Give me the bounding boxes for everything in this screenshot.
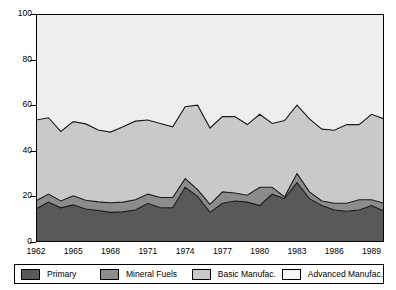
legend-item-advanced-manufac: Advanced Manufac. [282,269,383,280]
mineral-fuels-swatch [100,269,119,280]
advanced-manufac-swatch [282,269,301,280]
x-axis-tick-label: 1965 [56,246,90,256]
legend-label: Mineral Fuels [126,269,177,279]
basic-manufac-swatch [192,269,211,280]
x-axis-tick-label: 1980 [243,246,277,256]
chart-legend: PrimaryMineral FuelsBasic Manufac.Advanc… [14,264,384,284]
x-axis-tick-label: 1986 [317,246,351,256]
legend-label: Advanced Manufac. [308,269,383,279]
x-axis-tick-label: 1974 [168,246,202,256]
x-axis-tick-label: 1968 [94,246,128,256]
primary-swatch [21,269,40,280]
x-axis-tick-label: 1989 [355,246,389,256]
x-axis-tick-label: 1962 [19,246,53,256]
x-axis: 1962196519681971197419771980198319861989 [0,0,396,290]
legend-item-primary: Primary [21,269,94,280]
x-axis-tick-label: 1971 [131,246,165,256]
x-axis-tick-label: 1977 [205,246,239,256]
legend-item-basic-manufac: Basic Manufac. [192,269,276,280]
x-axis-tick-label: 1983 [280,246,314,256]
legend-label: Basic Manufac. [218,269,276,279]
stacked-area-chart: 020406080100 196219651968197119741977198… [0,0,396,290]
legend-label: Primary [47,269,76,279]
legend-item-mineral-fuels: Mineral Fuels [100,269,186,280]
